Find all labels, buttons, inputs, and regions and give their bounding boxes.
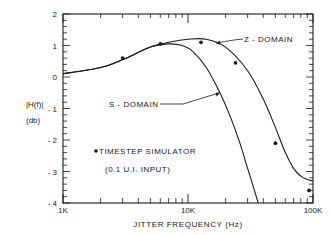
x-tick-label: 1K xyxy=(58,206,68,215)
y-tick-label: 2 xyxy=(53,10,58,19)
x-tick-label: 10K xyxy=(181,206,196,215)
y-axis-label-line1: |H(f)| xyxy=(26,100,43,109)
z-domain-arrowhead xyxy=(216,41,220,45)
s-domain-arrowhead xyxy=(216,93,221,97)
y-tick-label: - 3 xyxy=(48,168,58,177)
y-axis-label-line2: (db) xyxy=(26,116,41,125)
legend-label-line1: TIMESTEP SIMULATOR xyxy=(99,147,196,156)
frequency-response-chart: 210- 1- 2- 3- 41K10K100K |H(f)| (db) JIT… xyxy=(0,0,331,235)
y-tick-label: - 1 xyxy=(48,105,58,114)
y-tick-label: - 4 xyxy=(48,199,58,208)
z-domaincurve xyxy=(63,38,313,180)
simulator-data-point xyxy=(234,61,238,65)
simulator-data-point xyxy=(158,42,162,46)
legend-label-line2: (0.1 U.I. INPUT) xyxy=(105,165,170,174)
curves xyxy=(63,38,313,203)
legend-marker-icon xyxy=(94,149,98,153)
simulator-data-point xyxy=(121,56,125,60)
z-domain-label: Z - DOMAIN xyxy=(244,35,293,44)
simulator-data-point xyxy=(273,141,277,145)
y-tick-label: 0 xyxy=(53,73,58,82)
s-domain-leader-line xyxy=(160,93,219,104)
y-tick-label: - 2 xyxy=(48,136,58,145)
x-tick-label: 100K xyxy=(304,206,323,215)
s-domaincurve xyxy=(63,44,258,203)
s-domain-label: S - DOMAIN xyxy=(109,100,158,109)
x-axis-label: JITTER FREQUENCY (Hz) xyxy=(133,220,242,229)
z-domain-leader-line xyxy=(216,39,243,43)
y-tick-label: 1 xyxy=(53,42,58,51)
simulator-data-point xyxy=(307,189,311,193)
simulator-data-point xyxy=(199,40,203,44)
